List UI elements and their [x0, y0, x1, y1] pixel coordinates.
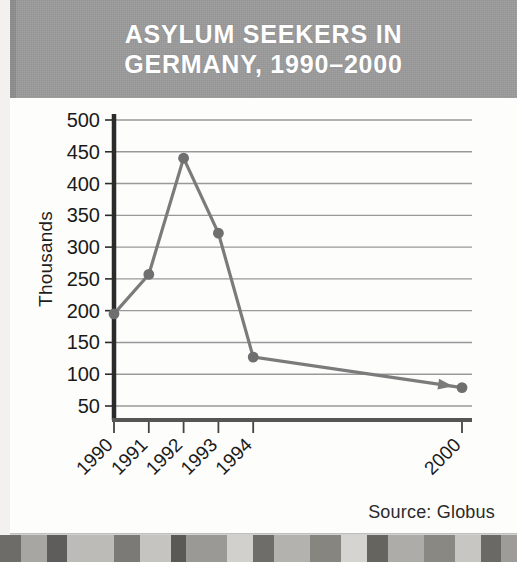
data-point — [248, 352, 259, 363]
y-axis-tick-label: 400 — [67, 173, 100, 195]
scanned-chart-page: ASYLUM SEEKERS IN GERMANY, 1990–2000 Tho… — [0, 0, 517, 562]
x-tick-label-group: 199019911992199319942000 — [72, 434, 465, 479]
data-point — [457, 382, 468, 393]
line-chart: 50100150200250300350400450500 1990199119… — [10, 98, 517, 498]
chart-plot-panel: Thousands 50100150200250300350400450500 … — [10, 98, 517, 535]
data-series-line — [114, 158, 462, 387]
y-axis-tick-label: 200 — [67, 300, 100, 322]
data-point-group — [109, 153, 468, 393]
x-axis-tick-label: 1993 — [176, 434, 221, 479]
x-axis-tick-label: 2000 — [420, 434, 465, 479]
x-axis-tick-label: 1994 — [211, 434, 256, 479]
chart-svg-wrap: 50100150200250300350400450500 1990199119… — [10, 98, 517, 502]
y-axis-tick-label: 450 — [67, 141, 100, 163]
y-axis-tick-label: 250 — [67, 268, 100, 290]
page-title: ASYLUM SEEKERS IN GERMANY, 1990–2000 — [114, 19, 412, 80]
x-tick-group — [114, 422, 462, 433]
y-axis-tick-label: 350 — [67, 204, 100, 226]
data-point — [213, 228, 224, 239]
data-point — [109, 308, 120, 319]
scanned-photo-strip — [0, 535, 517, 562]
y-axis-tick-label: 500 — [67, 109, 100, 131]
y-axis-tick-label: 100 — [67, 363, 100, 385]
y-axis-tick-label: 300 — [67, 236, 100, 258]
y-axis-tick-label: 50 — [78, 395, 100, 417]
y-axis-tick-label: 150 — [67, 331, 100, 353]
page-title-line-2: GERMANY, 1990–2000 — [124, 49, 402, 80]
chart-header-band: ASYLUM SEEKERS IN GERMANY, 1990–2000 — [10, 0, 517, 98]
x-axis-tick-label: 1991 — [107, 434, 152, 479]
page-title-line-1: ASYLUM SEEKERS IN — [124, 19, 402, 50]
y-tick-label-group: 50100150200250300350400450500 — [67, 109, 100, 417]
data-point — [143, 269, 154, 280]
data-point — [178, 153, 189, 164]
arrowhead-icon — [437, 379, 453, 390]
x-axis-tick-label: 1990 — [72, 434, 117, 479]
source-note: Source: Globus — [368, 502, 495, 523]
arrowhead-marker — [437, 379, 453, 390]
x-axis-tick-label: 1992 — [142, 434, 187, 479]
page-left-margin — [0, 0, 10, 535]
data-line-group — [114, 158, 462, 387]
